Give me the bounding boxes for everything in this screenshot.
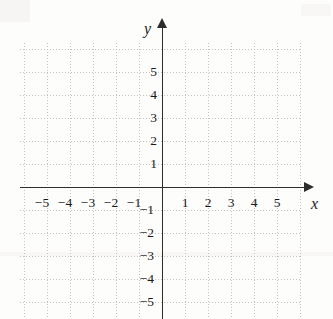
gridline-horizontal xyxy=(20,95,301,96)
y-tick-label: 5 xyxy=(131,65,157,79)
y-tick-label: −2 xyxy=(128,226,154,240)
gridline-vertical xyxy=(185,43,186,319)
y-axis-label: y xyxy=(144,21,151,37)
x-tick-label: 2 xyxy=(196,196,220,210)
gridline-horizontal xyxy=(20,302,301,303)
gridline-horizontal xyxy=(20,118,301,119)
x-tick-label: 4 xyxy=(242,196,266,210)
y-tick-label: 4 xyxy=(131,88,157,102)
y-tick-label: 3 xyxy=(131,111,157,125)
gridline-horizontal xyxy=(20,210,301,211)
gridline-vertical xyxy=(93,43,94,319)
y-tick-label: −5 xyxy=(128,295,154,309)
paper-artifact-top-right xyxy=(301,4,331,16)
gridline-vertical xyxy=(300,43,301,319)
x-tick-label: 5 xyxy=(265,196,289,210)
x-tick-label: −3 xyxy=(76,196,100,210)
gridline-horizontal xyxy=(20,279,301,280)
gridline-vertical xyxy=(116,43,117,319)
y-axis-line xyxy=(162,27,163,319)
x-tick-label: −4 xyxy=(53,196,77,210)
gridline-horizontal xyxy=(20,72,301,73)
x-axis-label: x xyxy=(311,196,318,212)
gridline-vertical xyxy=(277,43,278,319)
gridline-horizontal xyxy=(20,141,301,142)
y-tick-label: 2 xyxy=(131,134,157,148)
y-tick-label: −1 xyxy=(128,203,154,217)
coordinate-plane-figure: x y −5−4−3−2−112345 54321−1−2−3−4−5 xyxy=(0,0,333,319)
gridline-vertical xyxy=(254,43,255,319)
gridline-vertical xyxy=(70,43,71,319)
grid xyxy=(20,43,301,319)
paper-artifact-top-left xyxy=(0,0,30,22)
x-tick-label: 1 xyxy=(173,196,197,210)
gridline-vertical xyxy=(24,43,25,319)
gridline-horizontal xyxy=(20,49,301,50)
arrow-right-icon xyxy=(304,182,314,192)
gridline-vertical xyxy=(47,43,48,319)
x-tick-label: −2 xyxy=(99,196,123,210)
arrow-up-icon xyxy=(157,18,167,28)
y-tick-label: 1 xyxy=(131,157,157,171)
x-tick-label: 3 xyxy=(219,196,243,210)
y-tick-label: −4 xyxy=(128,272,154,286)
gridline-horizontal xyxy=(20,233,301,234)
gridline-horizontal xyxy=(20,256,301,257)
gridline-horizontal xyxy=(20,164,301,165)
gridline-vertical xyxy=(208,43,209,319)
gridline-vertical xyxy=(231,43,232,319)
y-tick-label: −3 xyxy=(128,249,154,263)
x-tick-label: −5 xyxy=(30,196,54,210)
